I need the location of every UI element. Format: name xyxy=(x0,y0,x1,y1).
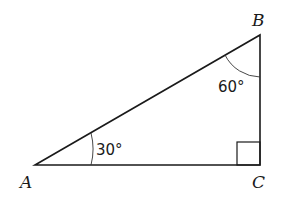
vertex-label-c: C xyxy=(252,172,265,192)
angle-label-b: 60° xyxy=(218,78,245,96)
angle-arc-a xyxy=(91,133,93,165)
vertex-label-a: A xyxy=(18,172,32,192)
right-angle-marker-c xyxy=(237,142,260,165)
angle-label-a: 30° xyxy=(96,141,123,159)
vertex-label-b: B xyxy=(251,10,265,30)
triangle-abc xyxy=(35,35,260,165)
angle-arc-b xyxy=(225,55,260,77)
triangle-diagram: 30° 60° A B C xyxy=(0,0,288,202)
